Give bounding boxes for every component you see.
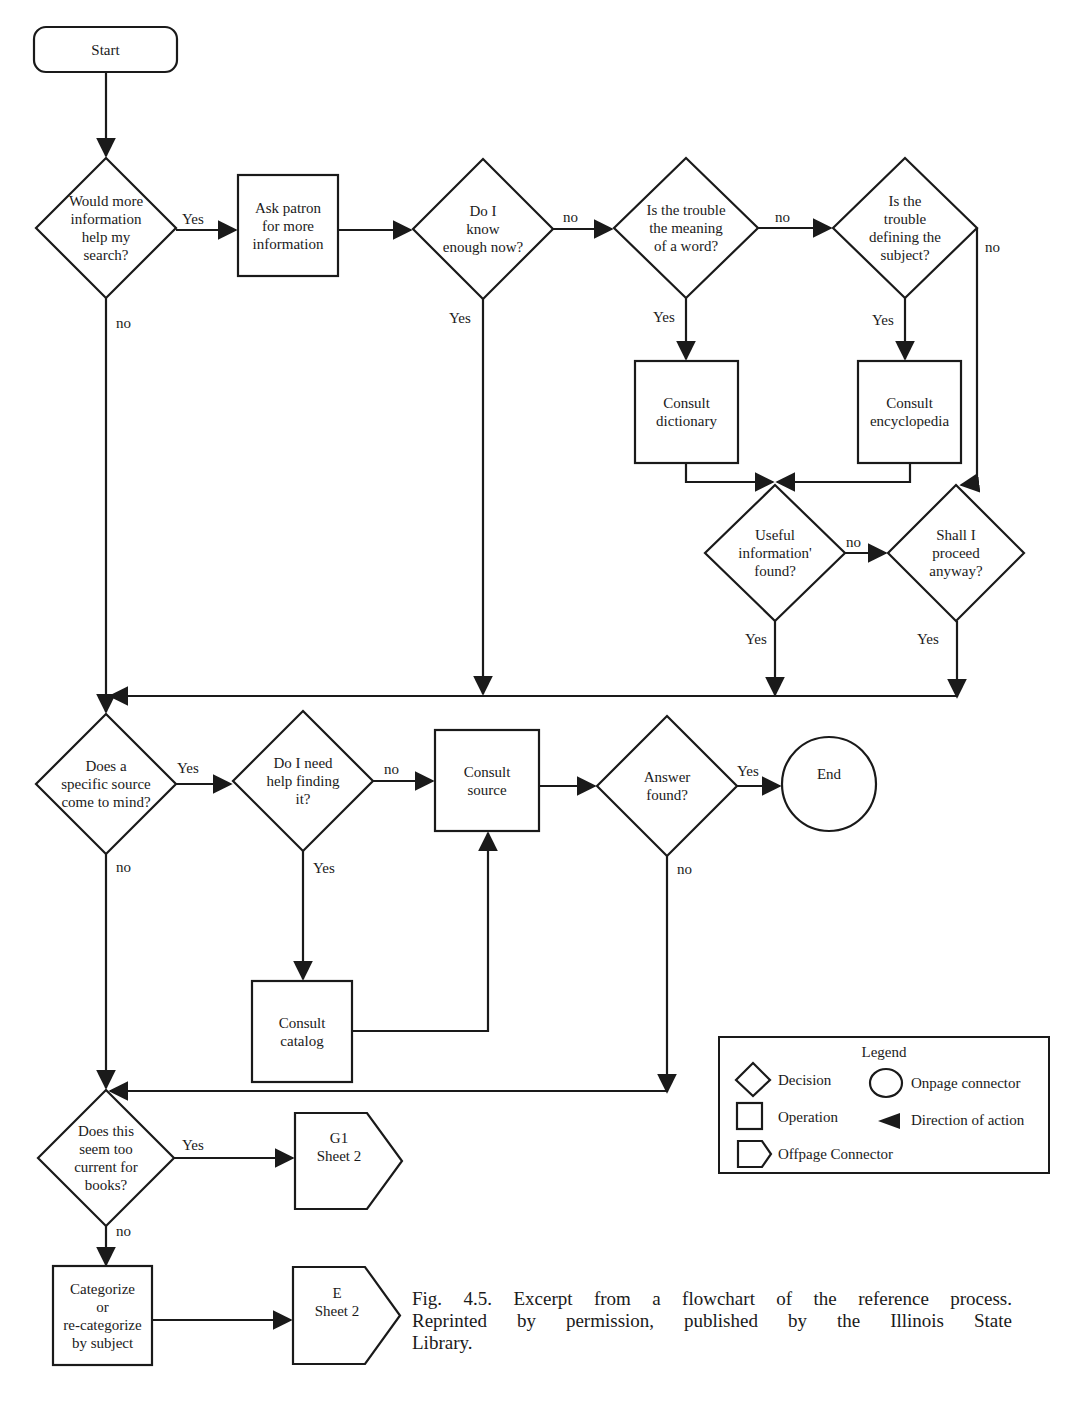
node-know-enough: Do Iknowenough now? [413, 159, 553, 299]
node-label-line: Consult [464, 764, 512, 780]
node-label-line: information [71, 211, 142, 227]
decision-diamond-shape [36, 158, 176, 298]
node-answer-found: Answerfound? [597, 716, 737, 856]
node-useful-info: Usefulinformation'found? [705, 485, 845, 621]
node-categorize: Categorizeorre-categorizeby subject [53, 1266, 152, 1365]
node-label-line: or [96, 1299, 109, 1315]
node-defining-subject: Is thetroubledefining thesubject? [833, 158, 977, 298]
operation-box-shape [252, 981, 352, 1082]
node-label-line: seem too [79, 1141, 133, 1157]
node-help-finding: Do I needhelp findingit? [233, 711, 373, 851]
node-label-line: Consult [886, 395, 934, 411]
node-label-line: Is the [889, 193, 922, 209]
node-label-line: Consult [663, 395, 711, 411]
node-label-line: Answer [644, 769, 691, 785]
node-end: End [782, 737, 876, 831]
decision-diamond-shape [833, 158, 977, 298]
node-label-line: Do I need [273, 755, 333, 771]
node-label-line: Sheet 2 [317, 1148, 362, 1164]
node-label-line: Do I [469, 203, 496, 219]
node-label-line: Useful [755, 527, 795, 543]
edge-label: Yes [917, 631, 939, 647]
edge-label: Yes [872, 312, 894, 328]
node-label-line: re-categorize [63, 1317, 142, 1333]
node-e-sheet2: ESheet 2 [293, 1267, 400, 1364]
node-start: Start [34, 27, 177, 72]
legend-direction-label: Direction of action [911, 1112, 1025, 1128]
node-consult-source: Consultsource [435, 730, 539, 831]
node-label-line: current for [74, 1159, 138, 1175]
node-label-line: anyway? [929, 563, 983, 579]
node-specific-source: Does aspecific sourcecome to mind? [36, 714, 176, 854]
operation-box-shape [858, 361, 961, 463]
edge-label: no [116, 315, 131, 331]
decision-diamond-shape [597, 716, 737, 856]
legend-offpage-connector-label: Offpage Connector [778, 1146, 893, 1162]
node-label-line: Is the trouble [646, 202, 725, 218]
node-label-line: proceed [932, 545, 980, 561]
node-label-line: dictionary [656, 413, 717, 429]
node-encyclopedia: Consultencyclopedia [858, 361, 961, 463]
node-label-line: encyclopedia [870, 413, 949, 429]
node-label-line: Shall I [936, 527, 976, 543]
edge-label: Yes [182, 1137, 204, 1153]
node-label-line: found? [646, 787, 688, 803]
node-label-line: catalog [280, 1033, 324, 1049]
node-proceed-anyway: Shall Iproceedanyway? [888, 485, 1024, 621]
node-label-line: End [817, 766, 842, 782]
legend-onpage-connector-label: Onpage connector [911, 1075, 1021, 1091]
node-label-line: for more [262, 218, 314, 234]
node-meaning-word: Is the troublethe meaningof a word? [614, 158, 758, 298]
edge-label: no [116, 859, 131, 875]
node-too-current: Does thisseem toocurrent forbooks? [38, 1090, 174, 1226]
legend-operation-icon [737, 1103, 762, 1129]
edge-label: Yes [745, 631, 767, 647]
connector-circle-shape [782, 737, 876, 831]
node-label-line: Sheet 2 [315, 1303, 360, 1319]
node-label-line: source [467, 782, 506, 798]
legend: Legend Decision Onpage connector Operati… [719, 1037, 1049, 1173]
legend-onpage-connector-icon [870, 1069, 902, 1097]
node-more-info: Would moreinformationhelp mysearch? [36, 158, 176, 298]
operation-box-shape [635, 361, 738, 463]
node-label-line: books? [85, 1177, 128, 1193]
edge-label: no [985, 239, 1000, 255]
edge-label: no [116, 1223, 131, 1239]
edge-label: no [677, 861, 692, 877]
node-label-line: Start [91, 42, 120, 58]
caption-line-1: Fig. 4.5. Excerpt from a flowchart of th… [412, 1288, 1012, 1310]
node-label-line: enough now? [443, 239, 524, 255]
edge-label: no [846, 534, 861, 550]
edge-label: no [775, 209, 790, 225]
legend-operation-label: Operation [778, 1109, 838, 1125]
node-label-line: G1 [330, 1130, 348, 1146]
legend-decision-label: Decision [778, 1072, 832, 1088]
edge-label: Yes [177, 760, 199, 776]
node-label-line: E [332, 1285, 341, 1301]
caption-line-2: Reprinted by permission, published by th… [412, 1310, 1012, 1332]
node-label-line: Does this [78, 1123, 134, 1139]
node-label-line: help my [82, 229, 131, 245]
node-label-line: Would more [69, 193, 144, 209]
node-label-line: trouble [884, 211, 927, 227]
node-label-line: search? [84, 247, 129, 263]
edge-label: Yes [313, 860, 335, 876]
node-label-line: information' [738, 545, 812, 561]
node-label-line: come to mind? [61, 794, 150, 810]
legend-title: Legend [862, 1044, 907, 1060]
node-label-line: help finding [267, 773, 340, 789]
node-label-line: Does a [85, 758, 127, 774]
node-label-line: information [253, 236, 324, 252]
node-label-line: of a word? [654, 238, 718, 254]
node-label-line: subject? [880, 247, 929, 263]
caption-line-3: Library. [412, 1332, 1012, 1354]
node-label-line: the meaning [649, 220, 723, 236]
node-label-line: Ask patron [255, 200, 322, 216]
node-label-line: found? [754, 563, 796, 579]
node-label-line: Consult [279, 1015, 327, 1031]
node-label-line: defining the [869, 229, 941, 245]
edge-label: Yes [737, 763, 759, 779]
figure-caption: Fig. 4.5. Excerpt from a flowchart of th… [412, 1288, 1012, 1354]
node-label-line: know [466, 221, 500, 237]
flowchart-canvas: StartWould moreinformationhelp mysearch?… [0, 0, 1083, 1404]
